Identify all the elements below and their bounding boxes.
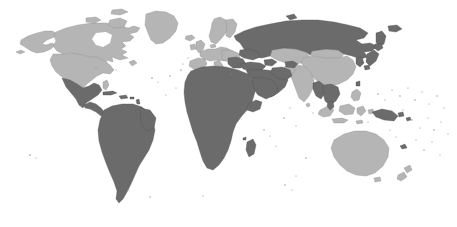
island-dot	[389, 129, 390, 130]
region-new-britain	[398, 112, 404, 117]
island-dot	[157, 81, 158, 82]
island-dot	[35, 157, 36, 158]
island-dot	[187, 57, 188, 58]
island-dot	[419, 127, 420, 128]
island-dot	[182, 63, 183, 64]
island-dot	[421, 91, 422, 92]
island-dot	[427, 117, 428, 118]
world-map-svg	[0, 0, 457, 227]
island-dot	[230, 73, 231, 74]
island-dot	[305, 157, 306, 158]
island-dot	[433, 129, 434, 130]
island-dot	[447, 133, 448, 134]
island-dot	[291, 189, 292, 190]
island-dot	[284, 184, 285, 185]
region-tasmania	[374, 177, 381, 182]
island-dot	[439, 154, 440, 155]
island-dot	[367, 121, 368, 122]
island-dot	[428, 103, 429, 104]
island-dot	[391, 89, 392, 90]
island-dot	[202, 195, 203, 196]
island-dot	[407, 87, 408, 88]
island-dot	[384, 99, 385, 100]
island-dot	[151, 77, 153, 79]
island-dot	[283, 117, 284, 118]
island-dot	[289, 107, 290, 108]
island-dot	[440, 121, 441, 122]
island-dot	[415, 139, 416, 140]
island-dot	[377, 93, 378, 94]
island-dot	[414, 99, 415, 100]
region-taiwan	[356, 81, 360, 86]
island-dot	[443, 107, 444, 108]
island-dot	[423, 149, 424, 150]
island-dot	[395, 136, 396, 137]
region-ireland	[190, 44, 196, 50]
island-dot	[399, 95, 400, 96]
island-dot	[115, 69, 116, 70]
region-puerto-rico	[130, 97, 134, 99]
island-dot	[29, 154, 31, 156]
island-dot	[127, 189, 128, 190]
island-dot	[149, 196, 150, 197]
island-dot	[169, 75, 170, 76]
island-dot	[275, 145, 276, 146]
island-dot	[175, 87, 176, 88]
island-dot	[263, 129, 264, 130]
island-dot	[95, 67, 96, 68]
island-dot	[411, 119, 412, 120]
island-dot	[431, 141, 432, 142]
island-dot	[312, 112, 313, 113]
island-dot	[295, 125, 296, 126]
island-dot	[165, 94, 166, 95]
island-dot	[180, 69, 181, 70]
world-map-figure	[0, 0, 457, 227]
island-dot	[295, 175, 296, 176]
island-dot	[402, 109, 403, 110]
island-dot	[436, 95, 437, 96]
region-japan-kyushu	[364, 65, 370, 70]
island-dot	[269, 135, 270, 136]
